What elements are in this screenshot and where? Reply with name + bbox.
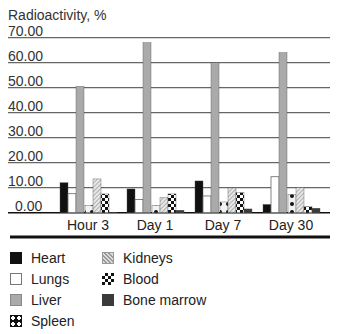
x-axis-ticks: Hour 3Day 1Day 7Day 30 bbox=[67, 217, 313, 233]
bar-lungs bbox=[271, 177, 279, 213]
legend-swatch-icon bbox=[10, 273, 22, 285]
x-tick-label: Hour 3 bbox=[67, 217, 109, 233]
legend-item-bone-marrow: Bone marrow bbox=[102, 290, 206, 310]
legend-item-heart: Heart bbox=[10, 248, 65, 268]
legend-label: Heart bbox=[31, 250, 65, 266]
bar-chart: Radioactivity, % 0.0010.0020.0030.0040.0… bbox=[0, 0, 340, 245]
bar-spleen bbox=[152, 206, 160, 213]
x-tick-label: Day 7 bbox=[205, 217, 242, 233]
bar-bone-marrow bbox=[109, 212, 117, 213]
y-tick-label: 50.00 bbox=[8, 73, 43, 89]
bar-liver bbox=[143, 43, 151, 213]
y-tick-label: 20.00 bbox=[8, 148, 43, 164]
legend-label: Kidneys bbox=[123, 250, 173, 266]
bar-liver bbox=[279, 53, 287, 213]
bar-kidneys bbox=[296, 188, 304, 213]
legend-item-spleen: Spleen bbox=[10, 311, 75, 331]
bar-lungs bbox=[203, 196, 211, 213]
bar-lungs bbox=[135, 199, 143, 212]
legend-item-kidneys: Kidneys bbox=[102, 248, 173, 268]
x-tick-label: Day 30 bbox=[269, 217, 314, 233]
legend: HeartLungsLiverSpleenKidneysBloodBone ma… bbox=[10, 248, 330, 332]
legend-label: Lungs bbox=[31, 271, 69, 287]
bar-kidneys bbox=[160, 198, 168, 213]
bar-spleen bbox=[220, 202, 228, 213]
y-axis-label: Radioactivity, % bbox=[8, 7, 107, 23]
legend-swatch-icon bbox=[10, 294, 22, 306]
legend-label: Liver bbox=[31, 292, 61, 308]
bar-heart bbox=[263, 204, 271, 212]
y-tick-label: 0.00 bbox=[15, 198, 42, 214]
legend-swatch-icon bbox=[10, 252, 22, 264]
legend-item-blood: Blood bbox=[102, 269, 159, 289]
y-tick-label: 10.00 bbox=[8, 173, 43, 189]
legend-label: Bone marrow bbox=[123, 292, 206, 308]
legend-item-lungs: Lungs bbox=[10, 269, 69, 289]
y-tick-label: 60.00 bbox=[8, 48, 43, 64]
x-tick-label: Day 1 bbox=[137, 217, 174, 233]
y-tick-label: 40.00 bbox=[8, 98, 43, 114]
bar-liver bbox=[211, 63, 219, 213]
legend-swatch-icon bbox=[102, 294, 114, 306]
bar-bone-marrow bbox=[244, 209, 252, 213]
bar-kidneys bbox=[93, 179, 101, 213]
bar-bone-marrow bbox=[312, 208, 320, 213]
bar-heart bbox=[60, 183, 68, 213]
bar-lungs bbox=[68, 194, 76, 213]
y-tick-label: 30.00 bbox=[8, 123, 43, 139]
bar-blood bbox=[236, 193, 244, 213]
bar-bone-marrow bbox=[176, 210, 184, 213]
legend-label: Spleen bbox=[31, 313, 75, 329]
legend-item-liver: Liver bbox=[10, 290, 61, 310]
bar-spleen bbox=[85, 205, 93, 213]
bar-heart bbox=[127, 189, 135, 213]
bar-heart bbox=[195, 181, 203, 213]
legend-swatch-icon bbox=[102, 273, 114, 285]
y-tick-label: 70.00 bbox=[8, 23, 43, 39]
bar-blood bbox=[168, 194, 176, 213]
bar-spleen bbox=[288, 194, 296, 213]
bar-blood bbox=[101, 194, 109, 213]
legend-label: Blood bbox=[123, 271, 159, 287]
legend-swatch-icon bbox=[102, 252, 114, 264]
bar-liver bbox=[76, 86, 84, 212]
bar-kidneys bbox=[228, 188, 236, 213]
legend-swatch-icon bbox=[10, 315, 22, 327]
bar-blood bbox=[304, 207, 312, 213]
